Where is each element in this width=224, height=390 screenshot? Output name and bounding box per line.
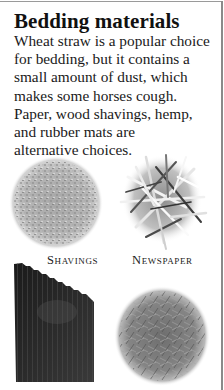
body-line: Paper, wood shavings, hemp, — [14, 105, 219, 123]
right-border-rule — [221, 1, 223, 390]
body-line: and rubber mats are — [14, 123, 219, 141]
rubber-mat-photo — [12, 262, 96, 386]
body-line: small amount of dust, which — [14, 68, 219, 86]
book-page: Bedding materials Wheat straw is a popul… — [0, 0, 224, 390]
newspaper-photo — [116, 147, 212, 253]
body-line: Wheat straw is a popular choice — [14, 32, 219, 50]
section-title: Bedding materials — [14, 9, 180, 34]
body-line: makes some horses cough. — [14, 87, 219, 105]
section-body: Wheat straw is a popular choice for bedd… — [14, 32, 219, 159]
newspaper-caption: Newspaper — [132, 253, 193, 268]
shavings-photo — [8, 152, 106, 252]
top-border-rule — [0, 1, 222, 2]
hemp-photo — [112, 284, 210, 388]
body-line: for bedding, but it contains a — [14, 50, 219, 68]
